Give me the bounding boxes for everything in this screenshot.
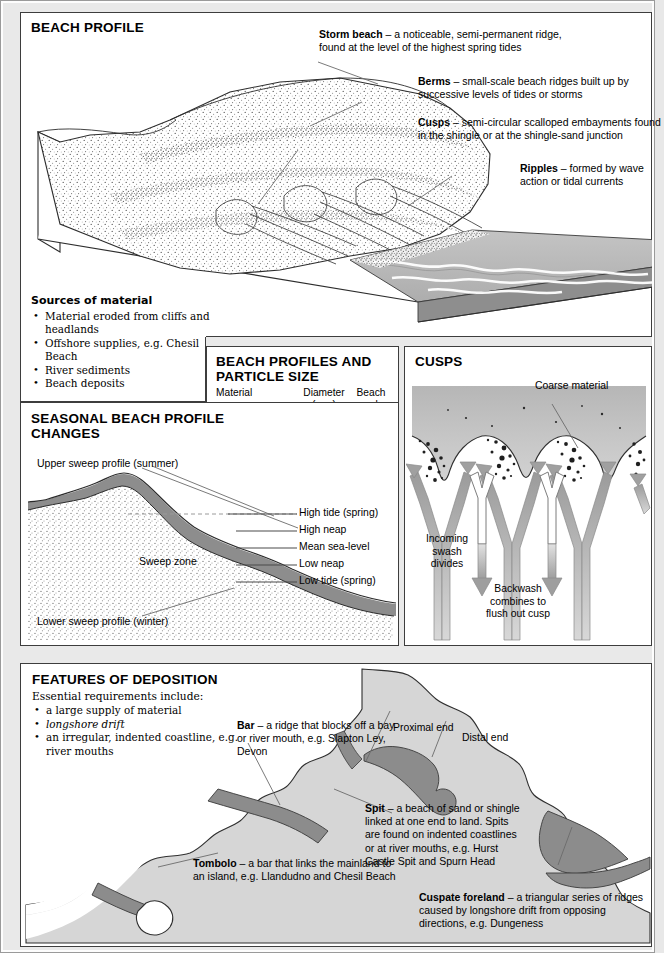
- deposition-label-distal-end: Distal end: [462, 732, 508, 744]
- sources-title: Sources of material: [31, 294, 211, 307]
- callout-cusps: Cusps – semi-circular scalloped embaymen…: [418, 116, 664, 142]
- deposition-label-proximal-end: Proximal end: [393, 722, 454, 734]
- callout-storm-beach: Storm beach – a noticeable, semi-permane…: [319, 28, 584, 54]
- label-term: Bar: [237, 719, 255, 731]
- page-inner: BEACH PROFILE: [6, 6, 655, 953]
- deposition-label-tombolo: Tombolo – a bar that links the mainland …: [193, 857, 403, 883]
- callout-term: Storm beach: [319, 28, 383, 40]
- tide-label-low-neap: Low neap: [299, 558, 344, 570]
- label-term: Spit: [365, 802, 385, 814]
- label-line: divides: [409, 558, 485, 571]
- beach-profile-panel: BEACH PROFILE: [20, 12, 652, 402]
- label-line: Backwash: [463, 583, 573, 596]
- label-line: Incoming: [409, 533, 485, 546]
- callout-term: Berms: [418, 75, 451, 87]
- list-item: Material eroded from cliffs and headland…: [31, 310, 211, 337]
- deposition-label-cuspate-foreland: Cuspate foreland – a triangular series o…: [419, 891, 649, 931]
- label-term: Tombolo: [193, 857, 237, 869]
- upper-sweep-profile-label: Upper sweep profile (summer): [37, 457, 178, 470]
- particle-size-title: BEACH PROFILES AND PARTICLE SIZE: [216, 354, 392, 384]
- tide-label-low-tide-spring: Low tide (spring): [299, 575, 376, 587]
- label-line: swash: [409, 546, 485, 559]
- table-header-row: Material Diameter Beach: [216, 387, 392, 399]
- column-header-material: Material: [216, 387, 298, 399]
- list-item: a large supply of material: [32, 704, 242, 718]
- column-header-angle: Beach: [350, 387, 392, 399]
- cusps-backwash-label: Backwash combines to flush out cusp: [463, 583, 573, 621]
- cusps-title: CUSPS: [415, 354, 463, 369]
- cusps-panel: CUSPS Coarse material Incoming swash div…: [404, 346, 652, 646]
- list-item: Offshore supplies, e.g. Chesil Beach: [31, 337, 211, 364]
- deposition-requirements-list: a large supply of material longshore dri…: [32, 704, 242, 758]
- list-item: Beach deposits: [31, 377, 211, 390]
- beach-profile-seam: [205, 336, 652, 337]
- deposition-label-bar: Bar – a ridge that blocks off a bay or r…: [237, 719, 402, 759]
- list-item: longshore drift: [32, 718, 242, 732]
- cusps-coarse-material-label: Coarse material: [535, 380, 645, 393]
- callout-text: – semi-circular scalloped embayments fou…: [418, 116, 661, 141]
- tide-label-mean-sea-level: Mean sea-level: [299, 541, 369, 553]
- seasonal-profile-panel: SEASONAL BEACH PROFILE CHANGES Upper swe…: [20, 402, 399, 646]
- list-item: River sediments: [31, 364, 211, 377]
- callout-term: Ripples: [520, 162, 558, 174]
- label-term: Cuspate foreland: [419, 891, 505, 903]
- sources-list: Material eroded from cliffs and headland…: [31, 310, 211, 390]
- callout-term: Cusps: [418, 116, 450, 128]
- lower-sweep-profile-label: Lower sweep profile (winter): [37, 615, 168, 628]
- label-line: flush out cusp: [463, 608, 573, 621]
- tide-label-high-neap: High neap: [299, 524, 346, 536]
- cusps-incoming-swash-label: Incoming swash divides: [409, 533, 485, 571]
- seasonal-profile-title: SEASONAL BEACH PROFILE CHANGES: [31, 411, 281, 441]
- callout-berms: Berms – small-scale beach ridges built u…: [418, 75, 654, 101]
- features-of-deposition-title: FEATURES OF DEPOSITION: [32, 672, 218, 687]
- sources-of-material-block: Sources of material Material eroded from…: [31, 294, 211, 390]
- label-line: combines to: [463, 596, 573, 609]
- callout-ripples: Ripples – formed by wave action or tidal…: [520, 162, 650, 188]
- tide-label-high-tide-spring: High tide (spring): [299, 507, 378, 519]
- list-item: an irregular, indented coastline, e.g. r…: [32, 731, 242, 758]
- column-header-diameter: Diameter: [298, 387, 350, 399]
- deposition-subtitle: Essential requirements include:: [32, 690, 203, 702]
- label-text: – a ridge that blocks off a bay or river…: [237, 719, 394, 757]
- page-title: BEACH PROFILE: [31, 20, 144, 35]
- features-of-deposition-panel: FEATURES OF DEPOSITION Essential require…: [20, 663, 652, 947]
- sweep-zone-label: Sweep zone: [139, 555, 197, 568]
